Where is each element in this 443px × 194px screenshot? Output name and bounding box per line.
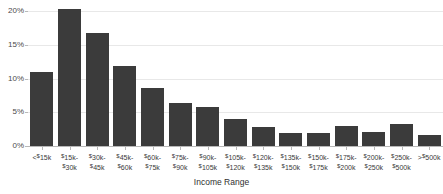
x-axis-tick-mark — [180, 147, 181, 150]
x-axis-tick-mark — [70, 147, 71, 150]
bar[interactable] — [113, 66, 136, 146]
x-axis-tick-mark — [429, 147, 430, 150]
bar-fill — [224, 119, 247, 146]
plot-area — [28, 0, 443, 147]
bar-fill — [86, 33, 109, 146]
y-axis-tick-label: 0% — [0, 142, 24, 150]
y-axis-tick-mark — [25, 11, 28, 12]
x-axis-tick-label: $15k-$30k — [57, 152, 82, 172]
x-axis-tick-mark — [374, 147, 375, 150]
x-axis-tick-label: $175k-$200k — [334, 152, 359, 172]
x-axis-tick-label: $150k-$175k — [306, 152, 331, 172]
bar-fill — [113, 66, 136, 146]
x-axis-tick-label: $90k-$105k — [195, 152, 220, 172]
bar[interactable] — [307, 133, 330, 147]
bar[interactable] — [390, 124, 413, 146]
bar[interactable] — [30, 72, 53, 146]
x-axis-tick-label: $120k-$135k — [251, 152, 276, 172]
bar[interactable] — [58, 9, 81, 146]
bar-fill — [335, 126, 358, 146]
y-axis-tick-mark — [25, 112, 28, 113]
bar[interactable] — [86, 33, 109, 146]
bar-series — [28, 0, 443, 147]
y-axis-tick-label: 10% — [0, 75, 24, 83]
x-axis-tick-label: $45k-$60k — [112, 152, 137, 172]
x-axis-tick-mark — [263, 147, 264, 150]
bar-chart: 0%5%10%15%20% <$15k$15k-$30k$30k-$45k$45… — [0, 0, 443, 194]
bar[interactable] — [196, 107, 219, 146]
x-axis-tick-label: $105k-$120k — [223, 152, 248, 172]
bar[interactable] — [279, 133, 302, 147]
x-axis-tick-label: $60k-$75k — [140, 152, 165, 172]
bar[interactable] — [141, 88, 164, 146]
x-axis-tick-mark — [153, 147, 154, 150]
x-axis-tick-mark — [125, 147, 126, 150]
x-axis-tick-labels: <$15k$15k-$30k$30k-$45k$45k-$60k$60k-$75… — [28, 147, 443, 177]
bar-fill — [169, 103, 192, 146]
bar[interactable] — [362, 132, 385, 146]
x-axis-tick-mark — [42, 147, 43, 150]
x-axis-tick-label: $30k-$45k — [85, 152, 110, 172]
bar-fill — [362, 132, 385, 146]
bar-fill — [252, 127, 275, 146]
bar-fill — [196, 107, 219, 146]
x-axis-tick-mark — [346, 147, 347, 150]
bar-fill — [30, 72, 53, 146]
bar[interactable] — [224, 119, 247, 146]
x-axis-tick-mark — [208, 147, 209, 150]
x-axis-tick-mark — [97, 147, 98, 150]
x-axis-tick-mark — [402, 147, 403, 150]
bar[interactable] — [169, 103, 192, 146]
bar-fill — [390, 124, 413, 146]
x-axis-tick-label: <$15k — [29, 152, 54, 162]
x-axis-title: Income Range — [0, 177, 443, 187]
bar[interactable] — [252, 127, 275, 146]
y-axis-tick-label: 5% — [0, 108, 24, 116]
bar-fill — [307, 133, 330, 147]
x-axis-tick-label: $200k-$250k — [361, 152, 386, 172]
y-axis-tick-mark — [25, 45, 28, 46]
x-axis-tick-label: >$500k — [417, 152, 442, 162]
y-axis-tick-label: 20% — [0, 7, 24, 15]
bar-fill — [279, 133, 302, 147]
bar-fill — [141, 88, 164, 146]
x-axis-tick-mark — [236, 147, 237, 150]
y-axis-tick-label: 15% — [0, 41, 24, 49]
bar[interactable] — [418, 135, 441, 146]
x-axis-tick-mark — [291, 147, 292, 150]
bar-fill — [418, 135, 441, 146]
bar-fill — [58, 9, 81, 146]
y-axis-tick-mark — [25, 79, 28, 80]
bar[interactable] — [335, 126, 358, 146]
x-axis-tick-mark — [319, 147, 320, 150]
x-axis-tick-label: $250k-$500k — [389, 152, 414, 172]
x-axis-tick-label: $75k-$90k — [168, 152, 193, 172]
x-axis-tick-label: $135k-$150k — [278, 152, 303, 172]
